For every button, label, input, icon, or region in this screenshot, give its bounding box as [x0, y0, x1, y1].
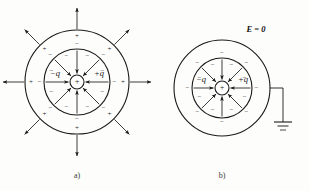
shell-inner-minus-sign: − — [102, 51, 106, 59]
shell-inner-minus-sign: − — [75, 40, 79, 48]
outer-surface-plus-sign: + — [108, 110, 112, 118]
outer-surface-plus-sign: + — [75, 32, 79, 40]
negative-charge-label: −q — [50, 68, 61, 78]
outer-surface-plus-sign: + — [108, 45, 112, 53]
cavity-field-arrow — [55, 88, 71, 104]
negative-charge-label: −q — [196, 74, 207, 84]
positive-charge-label: +q — [94, 68, 105, 78]
positive-charge-label: +q — [238, 74, 249, 84]
inner-surface-minus-sign: − — [65, 103, 69, 111]
shell-inner-minus-sign: − — [186, 84, 190, 92]
outer-surface-plus-sign: + — [121, 78, 125, 86]
external-field-arrow — [114, 119, 129, 134]
external-field-arrow — [25, 119, 40, 134]
panel-b: −−−−−−−−+−q+q−−−−−−−−E = 0 — [174, 24, 292, 136]
core-charge-sign: + — [75, 77, 79, 86]
shell-inner-minus-sign: − — [220, 118, 224, 126]
outer-surface-plus-sign: + — [42, 45, 46, 53]
cavity-field-arrow — [83, 88, 99, 104]
inner-surface-minus-sign: − — [211, 106, 215, 114]
inner-surface-minus-sign: − — [50, 88, 54, 96]
inner-surface-minus-sign: − — [229, 106, 233, 114]
outer-surface-plus-sign: + — [42, 110, 46, 118]
shell-inner-minus-sign: − — [113, 78, 117, 86]
shell-inner-minus-sign: − — [75, 115, 79, 123]
outer-surface-plus-sign: + — [75, 124, 79, 132]
panel-a-caption: a) — [74, 171, 81, 180]
shell-inner-minus-sign: − — [255, 84, 259, 92]
inner-surface-minus-sign: − — [229, 61, 233, 69]
inner-surface-minus-sign: − — [197, 93, 201, 101]
figure-canvas: −−−−−−−−+−q+q−−−−−−−−++++++++ −−−−−−−−+−… — [0, 0, 309, 191]
physics-figure: −−−−−−−−+−q+q−−−−−−−−++++++++ −−−−−−−−+−… — [0, 0, 309, 191]
field-zero-label: E = 0 — [245, 24, 266, 34]
inner-surface-minus-sign: − — [65, 52, 69, 60]
inner-surface-minus-sign: − — [86, 52, 90, 60]
inner-surface-minus-sign: − — [243, 93, 247, 101]
shell-inner-minus-sign: − — [220, 49, 224, 57]
shell-inner-minus-sign: − — [196, 59, 200, 67]
external-field-arrow — [114, 30, 129, 45]
outer-surface-plus-sign: + — [29, 78, 33, 86]
shell-inner-minus-sign: − — [102, 104, 106, 112]
inner-surface-minus-sign: − — [100, 88, 104, 96]
shell-inner-minus-sign: − — [244, 59, 248, 67]
shell-inner-minus-sign: − — [244, 108, 248, 116]
shell-inner-minus-sign: − — [196, 108, 200, 116]
panel-b-caption: b) — [219, 171, 226, 180]
inner-surface-minus-sign: − — [86, 103, 90, 111]
inner-surface-minus-sign: − — [211, 61, 215, 69]
external-field-arrow — [25, 30, 40, 45]
panel-a: −−−−−−−−+−q+q−−−−−−−−++++++++ — [3, 8, 151, 156]
shell-inner-minus-sign: − — [49, 104, 53, 112]
core-charge-sign: + — [220, 83, 224, 92]
shell-inner-minus-sign: − — [38, 78, 42, 86]
shell-inner-minus-sign: − — [49, 51, 53, 59]
